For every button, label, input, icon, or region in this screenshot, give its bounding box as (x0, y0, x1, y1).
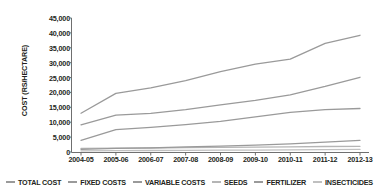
legend-label: INSECTICIDES (325, 178, 373, 187)
legend-item-seeds[interactable]: SEEDS (212, 178, 247, 187)
series-layer (81, 35, 360, 151)
x-tick-label: 2007-08 (173, 155, 198, 164)
plot-svg (72, 18, 369, 152)
legend-label: FIXED COSTS (80, 178, 126, 187)
x-tick-label: 2006-07 (138, 155, 163, 164)
x-axis-tick-labels: 2004-052005-062006-072007-082008-092009-… (62, 155, 379, 169)
x-tick-label: 2004-05 (69, 155, 94, 164)
series-line-variable-costs (81, 77, 360, 125)
y-tick-label: 15,000 (28, 103, 70, 112)
legend-label: SEEDS (224, 178, 247, 187)
line-chart: COST (RS/HECTARE) 45,00040,00035,00030,0… (0, 0, 379, 193)
y-tick-label: 35,000 (28, 43, 70, 52)
legend-item-insecticides[interactable]: INSECTICIDES (313, 178, 373, 187)
legend-line-icon (212, 181, 221, 182)
y-tick-label: 5,000 (28, 133, 70, 142)
series-line-fixed-costs (81, 109, 360, 141)
x-tick-label: 2009-10 (243, 155, 268, 164)
legend-line-icon (68, 181, 77, 182)
x-tick-label: 2011-12 (313, 155, 338, 164)
y-tick-label: 25,000 (28, 73, 70, 82)
plot-area (72, 18, 369, 152)
y-tick-label: 45,000 (28, 14, 70, 23)
chart-legend: TOTAL COSTFIXED COSTSVARIABLE COSTSSEEDS… (0, 175, 379, 189)
legend-label: FERTILIZER (266, 178, 306, 187)
legend-item-fixed-costs[interactable]: FIXED COSTS (68, 178, 126, 187)
x-tick-label: 2005-06 (103, 155, 128, 164)
y-axis-tick-labels: 45,00040,00035,00030,00025,00020,00015,0… (28, 14, 70, 154)
series-line-insecticides (81, 149, 360, 150)
legend-label: TOTAL COST (18, 178, 61, 187)
x-tick-label: 2008-09 (208, 155, 233, 164)
x-tick-label: 2012-13 (348, 155, 373, 164)
legend-item-total-cost[interactable]: TOTAL COST (6, 178, 61, 187)
y-tick-label: 10,000 (28, 118, 70, 127)
legend-line-icon (313, 181, 322, 182)
legend-line-icon (6, 181, 15, 182)
legend-label: VARIABLE COSTS (145, 178, 205, 187)
y-tick-label: 40,000 (28, 28, 70, 37)
y-tick-label: 20,000 (28, 88, 70, 97)
legend-item-variable-costs[interactable]: VARIABLE COSTS (133, 178, 205, 187)
series-line-total-cost (81, 35, 360, 113)
legend-line-icon (133, 181, 142, 182)
legend-line-icon (254, 181, 263, 182)
y-tick-label: 30,000 (28, 58, 70, 67)
legend-item-fertilizer[interactable]: FERTILIZER (254, 178, 306, 187)
x-tick-label: 2010-11 (278, 155, 303, 164)
